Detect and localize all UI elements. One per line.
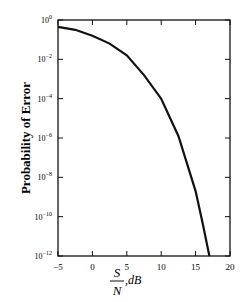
y-tick-label: 10−8 — [38, 171, 52, 182]
y-tick-label: 10−4 — [38, 93, 52, 104]
error-curve — [58, 27, 209, 256]
chart: −50510152010010−210−410−610−810−1010−12 … — [0, 0, 248, 302]
y-tick-label: 10−12 — [35, 250, 52, 261]
svg-text:,dB: ,dB — [125, 273, 142, 287]
axis-ticks — [58, 20, 230, 256]
x-tick-label: 5 — [125, 262, 130, 272]
y-axis-label: Probability of Error — [18, 82, 33, 194]
svg-text:S: S — [114, 265, 121, 280]
x-tick-label: 0 — [90, 262, 95, 272]
x-tick-label: 15 — [191, 262, 201, 272]
plot-frame — [58, 20, 230, 256]
x-tick-label: 20 — [226, 262, 236, 272]
y-tick-label: 10−2 — [38, 53, 52, 64]
plot-border — [58, 20, 230, 256]
svg-text:N: N — [112, 283, 123, 298]
y-tick-label: 10−6 — [38, 132, 52, 143]
x-tick-label: −5 — [53, 262, 63, 272]
y-tick-label: 10−10 — [35, 211, 52, 222]
y-tick-label: 100 — [41, 14, 52, 25]
x-tick-label: 10 — [157, 262, 167, 272]
